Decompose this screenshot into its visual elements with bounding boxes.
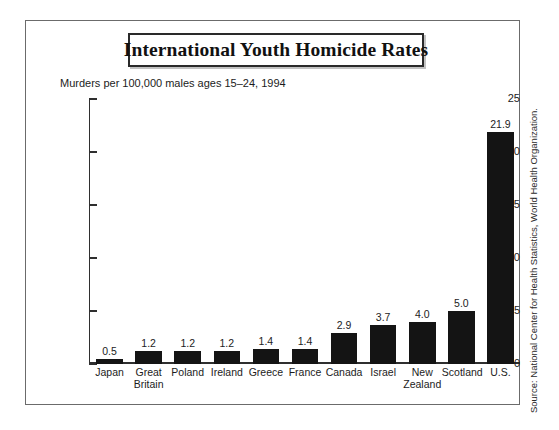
x-axis-label: Japan — [90, 366, 129, 378]
x-axis-label-line: Britain — [134, 378, 164, 390]
bar[interactable] — [370, 325, 397, 364]
bar-value-label: 0.5 — [102, 345, 117, 357]
x-axis-label: Scotland — [442, 366, 481, 378]
x-axis-label: France — [285, 366, 324, 378]
bar-group[interactable]: 1.2 — [135, 99, 162, 364]
bar-value-label: 1.2 — [141, 337, 156, 349]
page-title: International Youth Homicide Rates — [124, 39, 428, 61]
x-axis-label-line: Great — [135, 366, 161, 378]
bar-value-label: 21.9 — [490, 118, 510, 130]
bar-group[interactable]: 4.0 — [409, 99, 436, 364]
x-axis-label-line: France — [289, 366, 322, 378]
bar[interactable] — [96, 359, 123, 364]
x-axis-label-line: Zealand — [403, 378, 441, 390]
bar[interactable] — [253, 349, 280, 364]
x-axis-label: GreatBritain — [129, 366, 168, 390]
x-axis-label: U.S. — [481, 366, 520, 378]
x-axis-label: Ireland — [207, 366, 246, 378]
bar[interactable] — [174, 351, 201, 364]
bar-group[interactable]: 1.4 — [292, 99, 319, 364]
x-axis-label-line: Canada — [326, 366, 363, 378]
bar-value-label: 5.0 — [454, 297, 469, 309]
x-axis-label-line: Poland — [171, 366, 204, 378]
x-axis-label: NewZealand — [403, 366, 442, 390]
x-axis-label: Canada — [325, 366, 364, 378]
bar-group[interactable]: 3.7 — [370, 99, 397, 364]
bar[interactable] — [331, 333, 358, 364]
bar-value-label: 3.7 — [376, 311, 391, 323]
bar-value-label: 1.4 — [259, 335, 274, 347]
bar[interactable] — [487, 132, 514, 364]
bar[interactable] — [214, 351, 241, 364]
bar-group[interactable]: 21.9 — [487, 99, 514, 364]
bar[interactable] — [292, 349, 319, 364]
bar-value-label: 1.4 — [298, 335, 313, 347]
bar-value-label: 1.2 — [219, 337, 234, 349]
chart-title-box: International Youth Homicide Rates — [128, 33, 424, 67]
bar-value-label: 1.2 — [180, 337, 195, 349]
bar-group[interactable]: 2.9 — [331, 99, 358, 364]
x-axis-label-line: Israel — [370, 366, 396, 378]
bar-group[interactable]: 1.2 — [214, 99, 241, 364]
bar-group[interactable]: 0.5 — [96, 99, 123, 364]
bar-group[interactable]: 1.2 — [174, 99, 201, 364]
bar[interactable] — [409, 322, 436, 364]
bar-value-label: 4.0 — [415, 308, 430, 320]
bar-value-label: 2.9 — [337, 319, 352, 331]
x-axis-label: Poland — [168, 366, 207, 378]
bar[interactable] — [448, 311, 475, 364]
x-axis-label-line: U.S. — [490, 366, 510, 378]
chart-subtitle: Murders per 100,000 males ages 15–24, 19… — [60, 77, 286, 89]
bar-group[interactable]: 5.0 — [448, 99, 475, 364]
x-axis-label: Israel — [364, 366, 403, 378]
x-axis-labels: JapanGreatBritainPolandIrelandGreeceFran… — [90, 366, 520, 400]
x-axis-label-line: Ireland — [211, 366, 243, 378]
bars-layer: 0.51.21.21.21.41.42.93.74.05.021.9 — [90, 99, 520, 364]
bar[interactable] — [135, 351, 162, 364]
x-axis-label-line: Japan — [95, 366, 124, 378]
plot-area: 0510152025 0.51.21.21.21.41.42.93.74.05.… — [58, 99, 520, 364]
x-axis-label: Greece — [246, 366, 285, 378]
source-note: Source: National Center for Health Stati… — [528, 108, 539, 413]
x-axis-label-line: Greece — [249, 366, 283, 378]
x-axis-label-line: New — [412, 366, 433, 378]
x-axis-label-line: Scotland — [442, 366, 483, 378]
figure-frame: International Youth Homicide Rates Murde… — [25, 20, 520, 405]
bar-group[interactable]: 1.4 — [253, 99, 280, 364]
